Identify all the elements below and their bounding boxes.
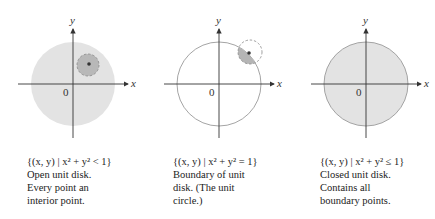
caption-line: Open unit disk. bbox=[27, 168, 112, 181]
origin-label: 0 bbox=[209, 86, 215, 98]
closed-disk-caption: {(x, y) | x² + y² ≤ 1} Closed unit disk.… bbox=[320, 155, 404, 207]
caption-line: Boundary of unit bbox=[173, 168, 258, 181]
boundary-caption: {(x, y) | x² + y² = 1} Boundary of unit … bbox=[173, 155, 258, 207]
y-axis-label: y bbox=[215, 14, 221, 26]
open-disk-caption: {(x, y) | x² + y² < 1} Open unit disk. E… bbox=[27, 155, 112, 207]
x-axis-label: x bbox=[276, 77, 282, 89]
caption-line: circle.) bbox=[173, 194, 258, 207]
caption-line: Contains all bbox=[320, 181, 404, 194]
boundary-panel: x y 0 bbox=[164, 14, 282, 138]
y-axis-label: y bbox=[362, 14, 368, 26]
interior-point bbox=[87, 62, 91, 66]
caption-line: Every point an bbox=[27, 181, 112, 194]
caption-line: disk. (The unit bbox=[173, 181, 258, 194]
caption-line: Closed unit disk. bbox=[320, 168, 404, 181]
closed-disk-panel: x y 0 bbox=[311, 14, 429, 138]
origin-label: 0 bbox=[63, 86, 69, 98]
boundary-point bbox=[247, 51, 251, 55]
set-notation: {(x, y) | x² + y² < 1} bbox=[27, 155, 112, 168]
x-axis-label: x bbox=[130, 77, 136, 89]
set-notation: {(x, y) | x² + y² ≤ 1} bbox=[320, 155, 404, 168]
open-disk-panel: x y 0 bbox=[18, 14, 136, 138]
caption-line: boundary points. bbox=[320, 194, 404, 207]
x-axis-label: x bbox=[423, 77, 429, 89]
set-notation: {(x, y) | x² + y² = 1} bbox=[173, 155, 258, 168]
y-axis-label: y bbox=[69, 14, 75, 26]
origin-label: 0 bbox=[356, 86, 362, 98]
caption-line: interior point. bbox=[27, 194, 112, 207]
unit-disk-figures: x y 0 x y 0 x y 0 bbox=[0, 0, 435, 140]
